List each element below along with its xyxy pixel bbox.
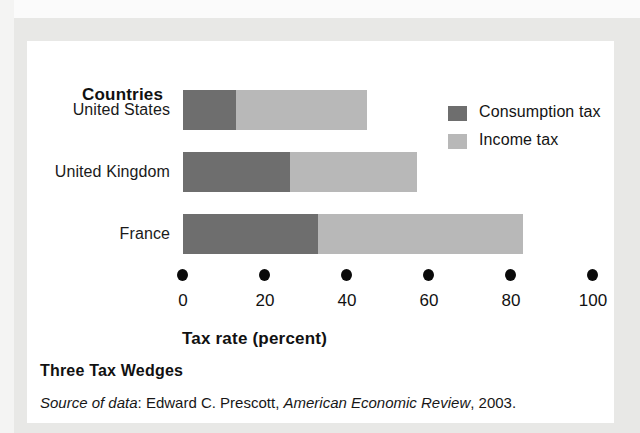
category-label-united-kingdom: United Kingdom (55, 163, 170, 181)
x-axis-tick-dot (505, 269, 516, 281)
source-year: , 2003. (470, 394, 516, 411)
legend-swatch-icon (448, 106, 467, 121)
x-axis-tick-label: 0 (178, 291, 187, 311)
category-label-united-states: United States (73, 101, 170, 119)
x-axis-title: Tax rate (percent) (182, 329, 327, 349)
category-label-france: France (120, 225, 170, 243)
source-author: Edward C. Prescott, (146, 394, 284, 411)
x-axis-tick-label: 20 (256, 291, 275, 311)
legend-swatch-icon (448, 134, 467, 149)
x-axis-tick-dot (587, 269, 598, 281)
bar-segment-income-tax (236, 90, 367, 130)
bar-segment-income-tax (290, 152, 417, 192)
bar-segment-consumption-tax (183, 90, 236, 130)
source-prefix: Source of data (40, 394, 138, 411)
scan-background-left-band (0, 0, 14, 433)
bar-row (183, 214, 523, 254)
scan-background-top-band (0, 0, 640, 18)
chart-card: Countries United States United Kingdom F… (27, 41, 614, 423)
figure-root: Countries United States United Kingdom F… (0, 0, 640, 433)
bar-row (183, 90, 368, 130)
bar-segment-income-tax (318, 214, 523, 254)
bar-segment-consumption-tax (183, 152, 290, 192)
source-separator: : (138, 394, 146, 411)
figure-title: Three Tax Wedges (40, 362, 183, 380)
x-axis-tick-label: 40 (338, 291, 357, 311)
x-axis-tick-dot (423, 269, 434, 281)
legend-label: Consumption tax (479, 103, 601, 121)
x-axis-tick-dot (259, 269, 270, 281)
x-axis-tick-label: 80 (502, 291, 521, 311)
figure-source-line: Source of data: Edward C. Prescott, Amer… (40, 394, 516, 411)
bar-segment-consumption-tax (183, 214, 318, 254)
x-axis-tick-dot (341, 269, 352, 281)
x-axis-tick-label: 100 (579, 291, 607, 311)
x-axis-tick-label: 60 (420, 291, 439, 311)
x-axis-tick-dot (177, 269, 188, 281)
legend-label: Income tax (479, 131, 558, 149)
source-journal: American Economic Review (283, 394, 470, 411)
bar-row (183, 152, 417, 192)
